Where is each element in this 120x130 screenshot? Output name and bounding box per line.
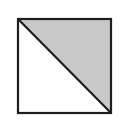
diagram-canvas — [0, 0, 120, 130]
